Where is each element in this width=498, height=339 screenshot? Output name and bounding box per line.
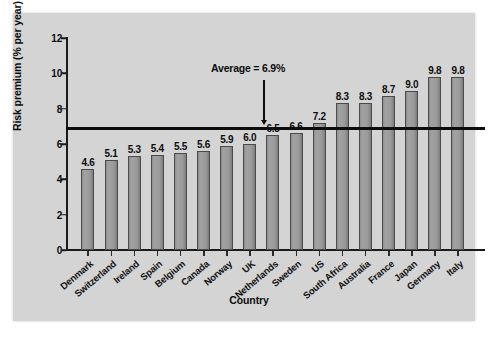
bar[interactable]: 5.1Switzerland — [105, 160, 118, 250]
bar-value-label: 4.6 — [81, 157, 94, 168]
y-axis-title: Risk premium (% per year) — [11, 1, 23, 131]
bar-value-label: 9.0 — [405, 79, 418, 90]
y-tick-mark — [61, 73, 66, 75]
bar-value-label: 8.3 — [336, 91, 349, 102]
x-tick-mark — [203, 251, 205, 256]
y-tick-mark — [61, 249, 66, 251]
average-arrow-shaft — [263, 80, 265, 121]
x-tick-mark — [365, 251, 367, 256]
bar-value-label: 5.9 — [220, 134, 233, 145]
chart-figure: Risk premium (% per year) 024681012 4.6D… — [0, 0, 498, 339]
x-tick-label: Italy — [444, 258, 465, 278]
x-tick-mark — [342, 251, 344, 256]
bar[interactable]: 5.9Norway — [220, 146, 233, 250]
bar-value-label: 8.3 — [359, 91, 372, 102]
bar-value-label: 5.4 — [151, 143, 164, 154]
average-annotation-label: Average = 6.9% — [211, 62, 285, 74]
bar-value-label: 5.5 — [174, 141, 187, 152]
x-tick-mark — [111, 251, 113, 256]
bar[interactable]: 8.7France — [382, 96, 395, 250]
x-axis-title: Country — [0, 294, 498, 306]
chart-panel: Risk premium (% per year) 024681012 4.6D… — [13, 13, 475, 321]
x-tick-mark — [226, 251, 228, 256]
average-arrow-head — [261, 120, 267, 125]
bar[interactable]: 9.0Japan — [405, 91, 418, 250]
x-tick-mark — [272, 251, 274, 256]
y-tick-mark — [61, 214, 66, 216]
bar-value-label: 9.8 — [451, 65, 464, 76]
bar[interactable]: 8.3South Africa — [336, 103, 349, 250]
x-tick-mark — [180, 251, 182, 256]
bar[interactable]: 6.5Netherlands — [266, 135, 279, 250]
x-tick-mark — [296, 251, 298, 256]
bar[interactable]: 6.6Sweden — [290, 133, 303, 250]
bar[interactable]: 4.6Denmark — [81, 169, 94, 250]
bar-value-label: 7.2 — [313, 111, 326, 122]
average-line — [66, 127, 485, 130]
bar-value-label: 5.1 — [105, 148, 118, 159]
bar-value-label: 5.3 — [128, 144, 141, 155]
x-tick-mark — [249, 251, 251, 256]
x-tick-mark — [157, 251, 159, 256]
bar[interactable]: 5.3Ireland — [128, 156, 141, 250]
x-tick-mark — [434, 251, 436, 256]
y-tick-mark — [61, 108, 66, 110]
plot-area: 024681012 4.6Denmark5.1Switzerland5.3Ire… — [66, 38, 485, 250]
y-tick-mark — [61, 143, 66, 145]
bar[interactable]: 5.4Spain — [151, 155, 164, 250]
bar-value-label: 8.7 — [382, 84, 395, 95]
bar[interactable]: 5.5Belgium — [174, 153, 187, 250]
bar[interactable]: 9.8Italy — [451, 77, 464, 250]
bar-value-label: 5.6 — [197, 139, 210, 150]
bar[interactable]: 8.3Australia — [359, 103, 372, 250]
bar[interactable]: 7.2US — [313, 123, 326, 250]
y-tick-mark — [61, 37, 66, 39]
x-tick-mark — [457, 251, 459, 256]
y-tick-mark — [61, 179, 66, 181]
bar-value-label: 9.8 — [428, 65, 441, 76]
bar-value-label: 6.0 — [243, 132, 256, 143]
bar[interactable]: 6.0UK — [243, 144, 256, 250]
x-tick-mark — [87, 251, 89, 256]
x-tick-label: France — [366, 258, 396, 286]
bar[interactable]: 5.6Canada — [197, 151, 210, 250]
bar[interactable]: 9.8Germany — [428, 77, 441, 250]
x-tick-mark — [411, 251, 413, 256]
x-tick-mark — [388, 251, 390, 256]
x-tick-mark — [134, 251, 136, 256]
x-tick-label: Ireland — [111, 258, 141, 286]
x-tick-mark — [319, 251, 321, 256]
